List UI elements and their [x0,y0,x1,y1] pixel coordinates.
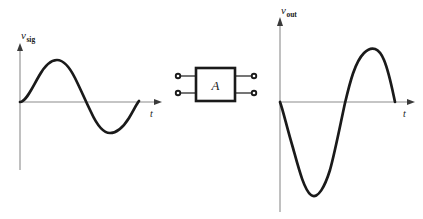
amplifier-gain-label: A [211,78,220,93]
input-plot-y-label: vsig [21,29,35,44]
output-plot-y-label-var: v [281,4,286,16]
input-plot-y-label-sub: sig [26,35,35,44]
amplifier-signal-diagram: vsig t A vout t [0,0,423,219]
amplifier-input-terminal-bottom-hole [177,92,180,95]
output-waveform [280,49,395,196]
output-plot-y-label: vout [281,4,297,19]
input-plot-x-label: t [150,108,153,119]
output-plot-y-label-sub: out [286,10,297,19]
output-plot-y-axis-arrow [277,17,283,26]
output-plot-x-label: t [403,108,406,119]
input-waveform [20,60,139,133]
input-plot-y-label-var: v [21,29,26,41]
input-plot-x-axis-arrow [154,99,162,105]
input-plot-y-axis-arrow [17,43,23,51]
input-plot: vsig t [0,0,170,219]
amplifier-input-terminal-top-hole [177,75,180,78]
amplifier-output-terminal-bottom-hole [253,92,256,95]
amplifier-symbol: A [170,0,260,219]
output-plot: vout t [260,0,423,219]
output-plot-x-axis-arrow [407,99,415,105]
amplifier-output-terminal-top-hole [253,75,256,78]
